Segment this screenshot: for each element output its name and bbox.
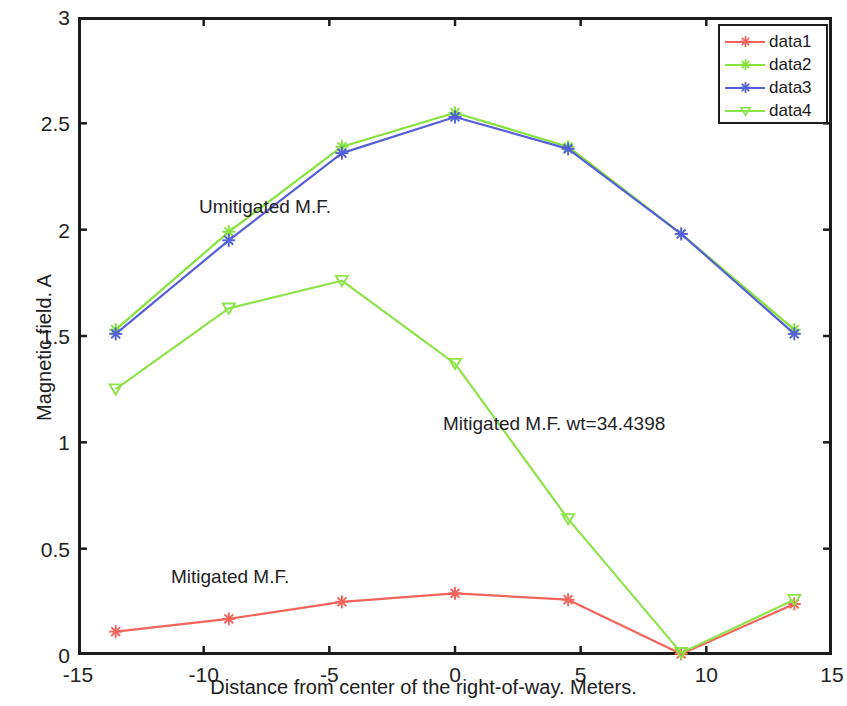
legend-swatch-data1-icon [725, 33, 765, 51]
legend-marker-data1-icon [739, 35, 752, 48]
y-tick-label: 0.5 [14, 538, 70, 559]
legend-marker-data3-icon [739, 81, 752, 94]
annotation-unmitigated: Umitigated M.F. [199, 196, 331, 218]
y-tick-label: 2.5 [14, 113, 70, 134]
legend-marker-data4-icon [739, 104, 752, 117]
legend-item-data2[interactable]: data2 [720, 53, 826, 76]
legend: data1data2data3data4 [718, 24, 828, 124]
legend-marker-data2-icon [739, 58, 752, 71]
x-axis-title: Distance from center of the right-of-way… [0, 676, 847, 699]
legend-label: data2 [765, 56, 812, 73]
legend-swatch-data3-icon [725, 79, 765, 97]
series-data3 [109, 110, 801, 340]
legend-swatch-data4-icon [725, 102, 765, 120]
y-tick-label: 0 [14, 645, 70, 666]
annotation-mitigated-weight: Mitigated M.F. wt=34.4398 [443, 413, 665, 435]
legend-item-data3[interactable]: data3 [720, 76, 826, 99]
legend-label: data3 [765, 79, 812, 96]
legend-item-data4[interactable]: data4 [720, 99, 826, 122]
annotation-mitigated: Mitigated M.F. [171, 566, 289, 588]
y-axis-title: Magnetic field. A [33, 218, 56, 478]
legend-swatch-data2-icon [725, 56, 765, 74]
series-data2 [109, 106, 801, 336]
legend-label: data4 [765, 102, 812, 119]
y-tick-label: 3 [14, 7, 70, 28]
legend-item-data1[interactable]: data1 [720, 30, 826, 53]
chart-root: -15-10-5051015 00.511.522.53 Distance fr… [0, 0, 847, 706]
series-data4 [110, 276, 801, 658]
legend-label: data1 [765, 33, 812, 50]
